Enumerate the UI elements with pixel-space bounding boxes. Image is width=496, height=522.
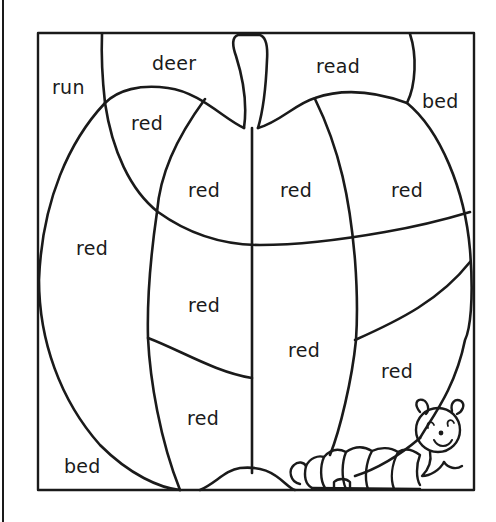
curve-lower-right: [355, 438, 420, 476]
apple-outline-left: [39, 87, 244, 490]
divider-run-deer: [102, 34, 105, 103]
region-label-red-upper-mid-right[interactable]: red: [280, 181, 312, 200]
region-label-red-center-right[interactable]: red: [288, 341, 320, 360]
region-label-red-left[interactable]: red: [76, 239, 108, 258]
region-label-bed-bottom-left[interactable]: bed: [64, 457, 101, 476]
curve-mid-left: [148, 338, 252, 378]
region-label-read[interactable]: read: [316, 57, 360, 76]
lower-right-arc: [355, 262, 470, 340]
region-label-red-lower-right[interactable]: red: [381, 362, 413, 381]
divider-read-bed: [407, 34, 415, 103]
apple-stem: [233, 35, 267, 128]
caterpillar: [291, 400, 464, 489]
region-label-red-center-left[interactable]: red: [188, 296, 220, 315]
region-label-bed-top-right[interactable]: bed: [422, 92, 459, 111]
region-label-red-top-left[interactable]: red: [131, 114, 163, 133]
region-label-red-upper-right[interactable]: red: [391, 181, 423, 200]
region-label-red-upper-mid-left[interactable]: red: [188, 181, 220, 200]
region-label-red-bottom-center[interactable]: red: [187, 409, 219, 428]
apple-outline-right: [258, 92, 472, 438]
column-right: [315, 99, 357, 455]
region-label-run[interactable]: run: [52, 78, 85, 97]
region-label-deer[interactable]: deer: [152, 54, 196, 73]
apple-bottom-dip: [200, 468, 295, 490]
